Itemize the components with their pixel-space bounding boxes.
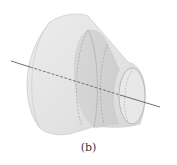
figure-caption: (b)	[0, 141, 177, 154]
axis-line-outer-left	[11, 61, 30, 67]
